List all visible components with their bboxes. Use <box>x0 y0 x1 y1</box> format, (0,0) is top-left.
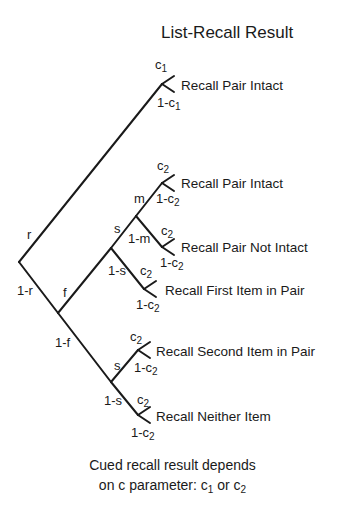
label-1-r: 1-r <box>17 284 33 297</box>
label-c2-second-top: c2 <box>130 330 142 343</box>
label-r: r <box>27 228 31 241</box>
label-s-upper: s <box>114 222 121 235</box>
label-s-lower: s <box>114 359 121 372</box>
outcome-recall-pair-intact-m: Recall Pair Intact <box>181 177 283 191</box>
label-1-m: 1-m <box>128 232 150 245</box>
outcome-recall-pair-intact-r: Recall Pair Intact <box>181 79 283 93</box>
footer-line-1: Cued recall result depends <box>0 458 345 472</box>
diagram-title: List-Recall Result <box>161 24 293 41</box>
outcome-recall-second-item: Recall Second Item in Pair <box>156 345 315 359</box>
label-c2-neither-top: c2 <box>137 393 149 406</box>
label-c2-first-top: c2 <box>140 264 152 277</box>
outcome-recall-neither-item: Recall Neither Item <box>156 410 271 424</box>
label-1-c2-first: 1-c2 <box>136 298 160 311</box>
label-c2-1m-top: c2 <box>161 224 173 237</box>
label-1-c1: 1-c1 <box>157 96 181 109</box>
label-c1-top: c1 <box>155 58 167 71</box>
label-c2-m-top: c2 <box>157 159 169 172</box>
label-1-c2-second: 1-c2 <box>134 361 158 374</box>
label-m: m <box>134 192 145 205</box>
outcome-recall-pair-not-intact: Recall Pair Not Intact <box>181 241 308 255</box>
label-1-c2-1m: 1-c2 <box>160 256 184 269</box>
footer-line-2: on c parameter: c1 or c2 <box>0 478 345 492</box>
label-1-c2-neither: 1-c2 <box>131 426 155 439</box>
outcome-recall-first-item: Recall First Item in Pair <box>165 284 305 298</box>
label-f: f <box>63 286 67 299</box>
label-1-s-lower: 1-s <box>104 394 122 407</box>
label-1-s-upper: 1-s <box>108 264 126 277</box>
label-1-c2-m: 1-c2 <box>156 192 180 205</box>
label-1-f: 1-f <box>55 336 70 349</box>
